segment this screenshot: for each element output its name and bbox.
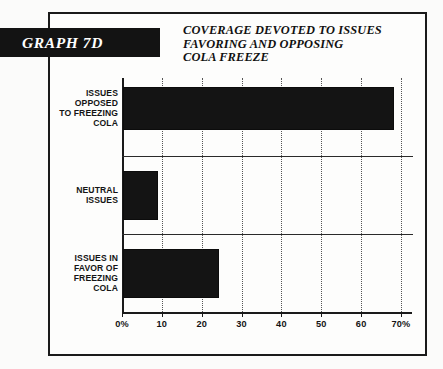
category-label: ISSUESOPPOSEDTO FREEZINGCOLA <box>23 88 118 129</box>
category-label-line: OPPOSED <box>23 98 118 108</box>
category-separator <box>122 156 413 157</box>
chart-title-line-3: COLA FREEZE <box>183 51 423 65</box>
x-axis-tick-label: 70% <box>392 319 411 329</box>
x-axis-tick-label: 10 <box>157 319 168 329</box>
bar <box>123 249 219 298</box>
x-axis-tick <box>242 312 243 317</box>
plot-area: 0%10203040506070% <box>122 78 412 312</box>
x-axis-tick-label: 20 <box>196 319 207 329</box>
bar <box>123 87 394 130</box>
category-label: NEUTRALISSUES <box>23 185 118 205</box>
category-label: ISSUES INFAVOR OFFREEZINGCOLA <box>23 253 118 294</box>
x-axis-tick <box>401 312 402 317</box>
x-axis-tick-label: 30 <box>236 319 247 329</box>
category-label-line: COLA <box>23 118 118 128</box>
x-axis-tick <box>281 312 282 317</box>
category-label-line: COLA <box>23 283 118 293</box>
category-label-line: FAVOR OF <box>23 263 118 273</box>
x-axis-tick-label: 50 <box>316 319 327 329</box>
graph-number-label: GRAPH 7D <box>22 34 103 52</box>
category-label-line: ISSUES <box>23 195 118 205</box>
category-label-line: ISSUES <box>23 88 118 98</box>
chart-title: COVERAGE DEVOTED TO ISSUES FAVORING AND … <box>183 24 423 65</box>
chart-title-line-1: COVERAGE DEVOTED TO ISSUES <box>183 24 423 38</box>
x-axis-line <box>122 312 412 314</box>
x-axis-tick-label: 60 <box>356 319 367 329</box>
x-axis-tick <box>361 312 362 317</box>
gridline <box>401 78 402 312</box>
chart-title-line-2: FAVORING AND OPPOSING <box>183 38 423 52</box>
category-label-line: FREEZING <box>23 273 118 283</box>
x-axis-tick <box>321 312 322 317</box>
x-axis-tick-label: 0% <box>115 319 129 329</box>
category-labels: ISSUESOPPOSEDTO FREEZINGCOLANEUTRALISSUE… <box>22 78 118 312</box>
x-axis-tick <box>162 312 163 317</box>
category-separator <box>122 234 413 235</box>
chart-page: GRAPH 7D COVERAGE DEVOTED TO ISSUES FAVO… <box>0 0 443 369</box>
x-axis-tick <box>122 312 123 317</box>
x-axis-tick <box>202 312 203 317</box>
bar <box>123 171 158 220</box>
category-label-line: NEUTRAL <box>23 185 118 195</box>
graph-number-badge: GRAPH 7D <box>0 28 160 57</box>
category-label-line: ISSUES IN <box>23 253 118 263</box>
x-axis-tick-label: 40 <box>276 319 287 329</box>
category-label-line: TO FREEZING <box>23 108 118 118</box>
